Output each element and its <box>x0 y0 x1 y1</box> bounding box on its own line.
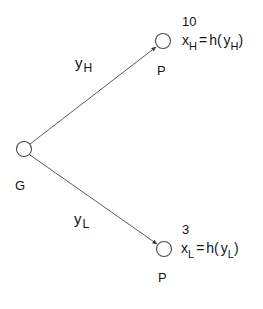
node-equation-p-low: xL=h(yL) <box>181 241 239 255</box>
equation-high-lhs-subscript: H <box>189 40 197 52</box>
node-label-p-low: P <box>158 271 167 284</box>
edge-label-low-base: y <box>74 210 82 227</box>
edge-label-high-base: y <box>75 54 83 71</box>
node-label-root-g: G <box>15 179 25 192</box>
equation-high-rhs-close: ) <box>239 32 244 48</box>
node-circle-p-low[interactable] <box>157 242 172 257</box>
edge-label-high: yH <box>75 55 91 70</box>
node-value-p-high: 10 <box>182 15 196 28</box>
equation-low-rhs-base: y <box>221 240 228 256</box>
node-label-p-high: P <box>157 64 166 77</box>
edge-label-low: yL <box>74 211 88 226</box>
node-circle-root-g[interactable] <box>17 142 32 157</box>
equation-low-lhs-base: x <box>181 240 188 256</box>
equation-high-rhs-subscript: H <box>231 40 239 52</box>
edge-high-line <box>30 47 156 144</box>
equation-low-rhs-subscript: L <box>228 248 234 260</box>
node-value-p-low: 3 <box>182 223 189 236</box>
edge-label-low-subscript: L <box>83 217 90 231</box>
equation-low-lhs-subscript: L <box>188 248 194 260</box>
equation-high-rhs-base: y <box>224 32 231 48</box>
equation-low-relation: = <box>196 240 204 256</box>
equation-high-relation: = <box>199 32 207 48</box>
node-equation-p-high: xH=h(yH) <box>182 33 243 47</box>
node-circle-p-high[interactable] <box>156 34 171 49</box>
equation-low-rhs-close: ) <box>234 240 239 256</box>
equation-low-rhs-fn: h( <box>206 240 218 256</box>
equation-high-lhs-base: x <box>182 32 189 48</box>
equation-high-rhs-fn: h( <box>209 32 221 48</box>
edge-low-line <box>30 155 157 244</box>
edge-label-high-subscript: H <box>84 61 93 75</box>
